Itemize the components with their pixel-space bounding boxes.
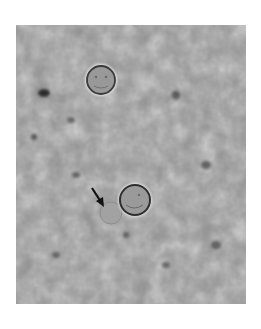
micrograph-frame [16, 25, 246, 304]
lower-cyst [116, 181, 154, 219]
background-texture [16, 25, 246, 304]
micrograph [16, 25, 246, 304]
upper-cyst [83, 62, 119, 98]
